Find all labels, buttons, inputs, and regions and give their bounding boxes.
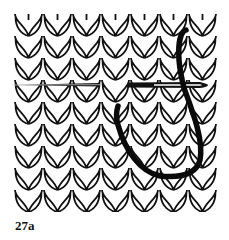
- figure-caption: 27a: [15, 218, 35, 234]
- knitting-illustration: [0, 0, 229, 240]
